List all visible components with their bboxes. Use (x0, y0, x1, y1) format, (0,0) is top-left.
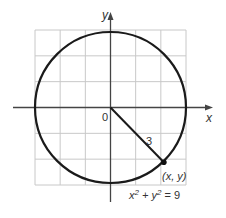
origin-label: 0 (102, 111, 108, 123)
x-axis-label: x (205, 111, 213, 125)
equation-label: x2 + y2 = 9 (128, 188, 180, 201)
radius-segment (111, 108, 164, 163)
radius-label: 3 (146, 135, 152, 147)
point-label: (x, y) (162, 170, 187, 182)
y-axis-arrow-icon (108, 12, 114, 20)
x-axis-arrow-icon (205, 105, 213, 111)
y-axis-label: y (101, 8, 109, 22)
point-marker (161, 159, 167, 165)
circle-diagram: y x 0 3 (x, y) x2 + y2 = 9 (0, 0, 226, 218)
